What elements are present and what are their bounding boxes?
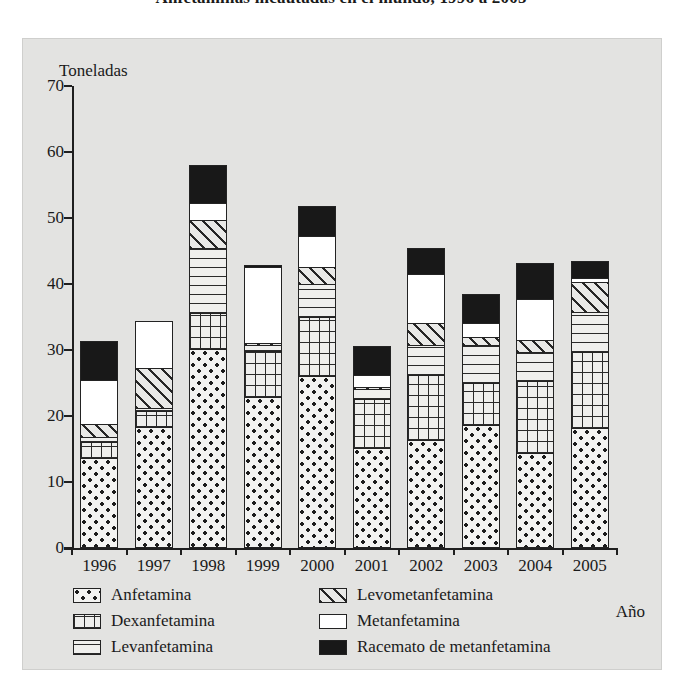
legend-swatch-levometanfetamina [319, 588, 347, 603]
bar-segment-racemato-de-metanfetamina [516, 263, 554, 299]
y-tick-label: 60 [30, 143, 64, 160]
x-tick [235, 548, 237, 555]
x-tick [616, 548, 618, 555]
y-tick-label: 0 [30, 539, 64, 556]
x-tick-label-1998: 1998 [181, 556, 235, 576]
x-tick-label-1997: 1997 [127, 556, 181, 576]
x-tick [344, 548, 346, 555]
y-tick-label: 10 [30, 473, 64, 490]
bar-segment-dexanfetamina [353, 399, 391, 450]
bar-segment-dexanfetamina [298, 317, 336, 377]
bar-segment-levanfetamina [571, 312, 609, 353]
bar-segment-levometanfetamina [135, 368, 173, 410]
bar-segment-levometanfetamina [407, 323, 445, 346]
bar-segment-metanfetamina [244, 267, 282, 344]
x-tick-label-2004: 2004 [508, 556, 562, 576]
bar-segment-anfetamina [516, 453, 554, 548]
y-tick-label: 30 [30, 341, 64, 358]
x-tick-label-2001: 2001 [345, 556, 399, 576]
bar-segment-metanfetamina [298, 236, 336, 268]
legend-swatch-metanfetamina [319, 614, 347, 629]
bar-segment-racemato-de-metanfetamina [407, 248, 445, 274]
x-axis-ticks [72, 548, 617, 555]
plot-area: 706050403020100 199619971998199920002001… [72, 86, 617, 548]
bar-segment-racemato-de-metanfetamina [571, 261, 609, 279]
bar-group [72, 86, 617, 548]
y-tick-label: 40 [30, 275, 64, 292]
x-tick [126, 548, 128, 555]
bar-segment-levanfetamina [298, 284, 336, 318]
bar-segment-dexanfetamina [244, 351, 282, 398]
bar-2000 [298, 207, 336, 548]
legend-label-racemato: Racemato de metanfetamina [357, 637, 551, 657]
bar-segment-anfetamina [407, 440, 445, 548]
bar-1999 [244, 266, 282, 548]
bar-segment-dexanfetamina [516, 381, 554, 454]
bar-segment-racemato-de-metanfetamina [462, 294, 500, 324]
bar-segment-levanfetamina [462, 345, 500, 384]
bar-segment-metanfetamina [80, 380, 118, 425]
legend-item-levometanfetamina: Levometanfetamina [319, 582, 551, 608]
bar-segment-anfetamina [189, 349, 227, 548]
bar-segment-levanfetamina [516, 352, 554, 382]
y-tick [64, 349, 72, 351]
legend-label-levanfetamina: Levanfetamina [111, 637, 213, 657]
y-tick-label: 20 [30, 407, 64, 424]
bar-segment-dexanfetamina [189, 313, 227, 350]
bar-segment-metanfetamina [135, 321, 173, 369]
y-tick-label: 50 [30, 209, 64, 226]
bar-segment-anfetamina [244, 397, 282, 548]
bar-segment-dexanfetamina [135, 411, 173, 428]
bar-segment-anfetamina [353, 448, 391, 548]
bar-segment-racemato-de-metanfetamina [80, 341, 118, 381]
legend-label-dexanfetamina: Dexanfetamina [111, 611, 215, 631]
legend-swatch-levanfetamina [73, 640, 101, 655]
bar-segment-anfetamina [298, 376, 336, 548]
legend-swatch-dexanfetamina [73, 614, 101, 629]
y-tick [64, 481, 72, 483]
bar-2001 [353, 347, 391, 548]
legend-item-anfetamina: Anfetamina [73, 582, 215, 608]
bar-segment-anfetamina [571, 428, 609, 548]
x-tick [507, 548, 509, 555]
bar-1997 [135, 322, 173, 548]
legend-column-right: LevometanfetaminaMetanfetaminaRacemato d… [319, 582, 551, 660]
bar-segment-anfetamina [462, 425, 500, 548]
x-tick-label-2005: 2005 [563, 556, 617, 576]
y-tick [64, 415, 72, 417]
bar-2005 [571, 262, 609, 548]
x-tick-label-2002: 2002 [399, 556, 453, 576]
bar-segment-dexanfetamina [80, 442, 118, 459]
legend-label-metanfetamina: Metanfetamina [357, 611, 460, 631]
legend-item-racemato: Racemato de metanfetamina [319, 634, 551, 660]
bar-segment-levometanfetamina [571, 282, 609, 314]
legend-label-levometanfetamina: Levometanfetamina [357, 585, 493, 605]
bar-segment-racemato-de-metanfetamina [298, 206, 336, 237]
chart-legend: AnfetaminaDexanfetaminaLevanfetamina Lev… [73, 582, 633, 660]
bar-segment-dexanfetamina [407, 375, 445, 441]
bar-segment-racemato-de-metanfetamina [189, 165, 227, 204]
y-axis-unit-label: Toneladas [59, 61, 128, 81]
x-tick-label-2000: 2000 [290, 556, 344, 576]
x-tick [180, 548, 182, 555]
bar-segment-metanfetamina [189, 203, 227, 221]
x-tick [453, 548, 455, 555]
x-tick-label-1999: 1999 [236, 556, 290, 576]
bar-segment-anfetamina [135, 427, 173, 548]
legend-swatch-anfetamina [73, 588, 101, 603]
bar-segment-metanfetamina [516, 299, 554, 342]
y-tick [64, 85, 72, 87]
y-tick [64, 217, 72, 219]
bar-2003 [462, 295, 500, 548]
y-tick [64, 283, 72, 285]
bar-segment-dexanfetamina [462, 383, 500, 426]
legend-swatch-racemato [319, 640, 347, 655]
bar-segment-dexanfetamina [571, 352, 609, 429]
x-tick [562, 548, 564, 555]
y-tick-label: 70 [30, 77, 64, 94]
x-tick [398, 548, 400, 555]
x-tick [289, 548, 291, 555]
bar-1996 [80, 342, 118, 548]
bar-segment-levanfetamina [189, 248, 227, 315]
bar-segment-levanfetamina [407, 345, 445, 376]
